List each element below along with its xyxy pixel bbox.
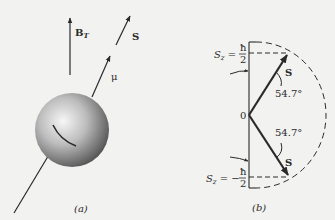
- lower-angle-label: 54.7°: [275, 127, 302, 138]
- svg-text:2: 2: [240, 54, 246, 65]
- electron-sphere: [35, 93, 109, 167]
- panel-b: 0 S S 54.7° 54.7° Sz = ħ 2 Sz = − ħ 2 (b…: [206, 42, 326, 213]
- field-subscript: T: [83, 31, 89, 40]
- svg-text:Sz = −: Sz = −: [206, 173, 240, 186]
- top-level-label: Sz = ħ 2: [214, 42, 247, 65]
- lower-precession-arrow-icon: [230, 157, 248, 161]
- upper-precession-arrow-icon: [230, 71, 248, 74]
- bottom-level-label: Sz = − ħ 2: [206, 166, 247, 189]
- magnetic-moment-arrow: [92, 56, 110, 97]
- svg-text:Sz =: Sz =: [214, 49, 236, 62]
- field-label: BT: [75, 27, 89, 40]
- svg-text:2: 2: [240, 178, 246, 189]
- upper-angle-arc: [276, 72, 281, 86]
- lower-spin-vector: [249, 115, 288, 175]
- upper-vector-label: S: [285, 67, 292, 78]
- lower-vector-label: S: [285, 157, 292, 168]
- spin-vector-arrow: [116, 16, 130, 45]
- upper-angle-label: 54.7°: [275, 88, 302, 99]
- svg-text:ħ: ħ: [240, 166, 247, 177]
- origin-label: 0: [240, 110, 246, 121]
- moment-label: μ: [111, 71, 118, 82]
- caption-a: (a): [74, 203, 88, 214]
- spin-label: S: [132, 31, 139, 42]
- panel-a: BT S μ (a): [14, 16, 139, 214]
- caption-b: (b): [252, 202, 266, 213]
- spin-quantization-figure: BT S μ (a) 0 S S 54.7° 54.7°: [0, 0, 335, 220]
- svg-text:ħ: ħ: [240, 42, 247, 53]
- lower-angle-arc: [276, 143, 282, 158]
